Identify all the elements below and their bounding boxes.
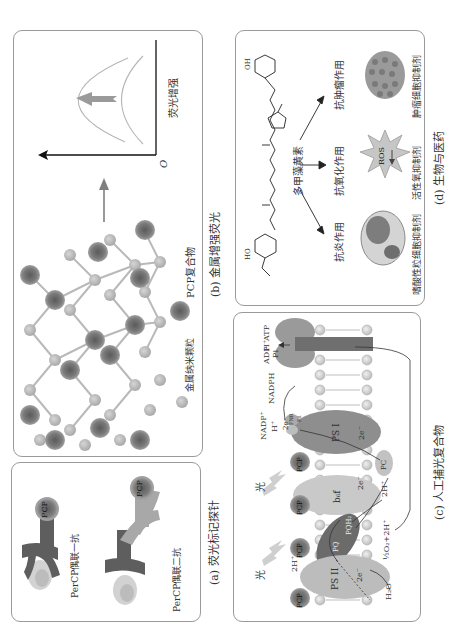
- 2e-ps2-label: 2e⁻: [355, 568, 364, 582]
- pqh2-label: PQH₂: [345, 516, 353, 535]
- h-atp-label: H⁺: [262, 340, 271, 351]
- o2-label: ½O₂+2H⁺: [382, 519, 391, 560]
- light-label-1: 光: [252, 570, 267, 580]
- atp-label: ATP: [262, 325, 271, 341]
- 2h-bottom-label: 2H⁺: [380, 481, 389, 497]
- 2e-b6f-label: 2e⁻: [356, 476, 365, 490]
- panel-c-caption: (c) 人工捕光复合物: [430, 425, 446, 520]
- pcp-label-1: PCP: [296, 593, 304, 608]
- pc-label: PC: [380, 460, 388, 470]
- pcp-label-4: PCP: [296, 457, 304, 472]
- ps2-complex: [300, 555, 390, 599]
- fnr-label: FNR: [288, 413, 294, 425]
- nadp-label: NADP⁺: [259, 411, 268, 440]
- light-label-2: 光: [252, 482, 267, 492]
- h2o-label: H₂O: [384, 583, 393, 600]
- 2e-ps1-label: 2e⁻: [357, 426, 366, 440]
- pcp-label-3: PCP: [296, 500, 304, 515]
- h-nadp-label: H⁺: [270, 421, 279, 432]
- fd-label: Fd: [296, 415, 302, 422]
- pq-label: PQ: [332, 542, 340, 552]
- ps2-label: PS II: [330, 568, 340, 590]
- b6f-label: b₆f: [332, 490, 342, 503]
- pi-label: Pi: [271, 350, 280, 358]
- nadph-label: NADPH: [267, 372, 276, 404]
- 2h-top-label: 2H⁺: [290, 556, 299, 572]
- ps1-label: PS I: [331, 423, 341, 442]
